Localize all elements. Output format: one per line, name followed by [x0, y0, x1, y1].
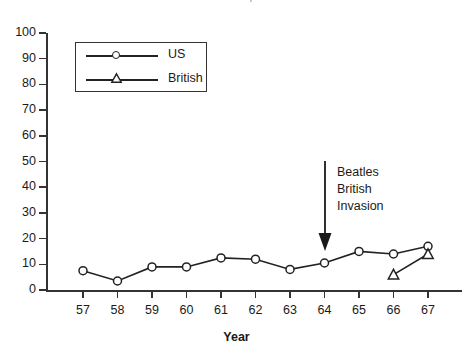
legend-entry-us: US	[76, 43, 208, 68]
data-point-circle	[183, 263, 191, 271]
legend-box: US British	[75, 42, 207, 92]
data-point-circle	[252, 255, 260, 263]
data-point-circle	[390, 250, 398, 258]
data-point-circle	[114, 277, 122, 285]
data-point-triangle	[423, 249, 433, 259]
annotation-beatles-british-invasion: Beatles British Invasion	[337, 164, 384, 215]
triangle-marker-icon	[116, 79, 127, 89]
data-point-circle	[79, 267, 87, 275]
data-point-circle	[148, 263, 156, 271]
data-point-circle	[355, 247, 363, 255]
data-series-layer	[0, 0, 473, 354]
data-point-circle	[217, 254, 225, 262]
legend-label-british: British	[168, 71, 203, 85]
down-arrow-icon	[318, 161, 332, 251]
legend-entry-british: British	[76, 67, 208, 92]
annotation-line-2: British	[337, 181, 384, 198]
data-point-circle	[321, 259, 329, 267]
legend-label-us: US	[168, 47, 185, 61]
x-axis-title: Year	[0, 330, 473, 344]
legend-line-sample	[86, 55, 158, 57]
data-point-triangle	[388, 269, 398, 279]
line-chart: 0102030405060708090100 57585960616263646…	[0, 0, 473, 354]
circle-marker-icon	[116, 55, 120, 59]
data-point-circle	[286, 265, 294, 273]
annotation-line-1: Beatles	[337, 164, 384, 181]
annotation-line-3: Invasion	[337, 198, 384, 215]
